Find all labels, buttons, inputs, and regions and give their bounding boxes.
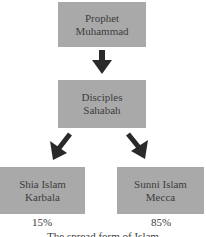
node-label-line1: Shia Islam [19, 178, 66, 191]
arrow-middle-to-left [50, 134, 70, 160]
node-label-line2: Karbala [25, 191, 60, 204]
shia-percentage: 15% [32, 216, 52, 228]
arrow-middle-to-right [128, 134, 148, 159]
node-disciples-sahabah: Disciples Sahabah [58, 80, 146, 128]
node-label-line2: Mecca [146, 191, 175, 204]
node-shia-islam: Shia Islam Karbala [0, 167, 85, 214]
node-label-line2: Sahabah [83, 104, 120, 117]
node-label-line1: Sunni Islam [134, 178, 187, 191]
sunni-percentage: 85% [151, 216, 171, 228]
arrow-top-to-middle [92, 50, 112, 74]
node-label-line1: Disciples [82, 91, 123, 104]
node-prophet-muhammad: Prophet Muhammad [58, 2, 146, 47]
node-sunni-islam: Sunni Islam Mecca [117, 167, 204, 214]
node-label-line2: Muhammad [75, 25, 128, 38]
figure-caption: The spread form of Islam [0, 230, 206, 237]
node-label-line1: Prophet [85, 12, 119, 25]
